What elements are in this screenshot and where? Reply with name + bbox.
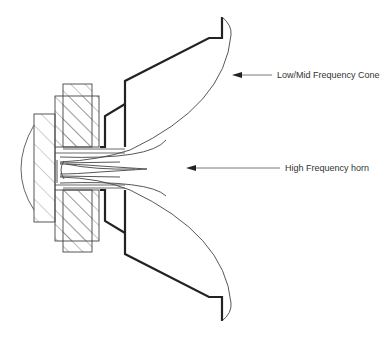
rear-dome [21, 125, 34, 210]
horn-label: High Frequency horn [285, 163, 369, 173]
magnet-assembly [34, 84, 125, 252]
cone-label: Low/Mid Frequency Cone [277, 70, 380, 80]
hf-horn [57, 160, 147, 183]
horn-arrow [186, 165, 280, 171]
cone-arrow [232, 72, 272, 78]
